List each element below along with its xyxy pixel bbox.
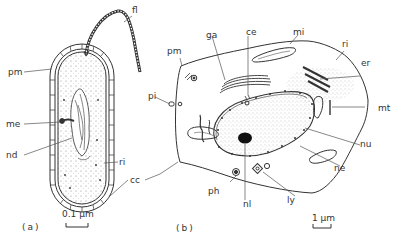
scale-label-b: 1 μm bbox=[312, 213, 335, 223]
label-mitochondrion: mi bbox=[293, 28, 304, 37]
label-plasma-membrane-b: pm bbox=[167, 47, 181, 56]
label-phagocytic-vesicle: ph bbox=[208, 187, 219, 196]
eukaryote-cell bbox=[145, 35, 368, 200]
prokaryote-cell bbox=[24, 11, 140, 212]
label-flagellum-a: fl bbox=[132, 6, 138, 15]
scale-bar-b bbox=[313, 224, 331, 228]
label-endoplasmic-reticulum: er bbox=[361, 59, 370, 68]
caption-b: (b) bbox=[176, 223, 195, 233]
scale-label-a: 0.1 μm bbox=[62, 209, 94, 219]
label-ribosome-b: ri bbox=[342, 40, 348, 49]
label-microtubule: mt bbox=[378, 104, 390, 113]
label-cell-wall: cc bbox=[130, 176, 140, 185]
label-lysosome: ly bbox=[287, 196, 295, 205]
label-mesosome-a: me bbox=[6, 120, 20, 129]
caption-a: (a) bbox=[22, 222, 41, 232]
label-nucleus: nu bbox=[360, 140, 371, 149]
cell-comparison-diagram: fl pm me nd ri cc (a) 0.1 μm pm ga ce mi… bbox=[0, 0, 410, 249]
label-plasma-membrane-a: pm bbox=[8, 68, 22, 77]
label-pinocytic-vesicle: pi bbox=[148, 92, 156, 101]
label-centriole: ce bbox=[246, 28, 257, 37]
label-nucleoid-a: nd bbox=[6, 151, 17, 160]
label-ribosome-a: ri bbox=[119, 158, 125, 167]
label-nuclear-envelope: ne bbox=[334, 164, 345, 173]
label-golgi: ga bbox=[206, 31, 217, 40]
scale-bar-a bbox=[66, 223, 88, 227]
label-nucleolus: nl bbox=[243, 200, 251, 209]
